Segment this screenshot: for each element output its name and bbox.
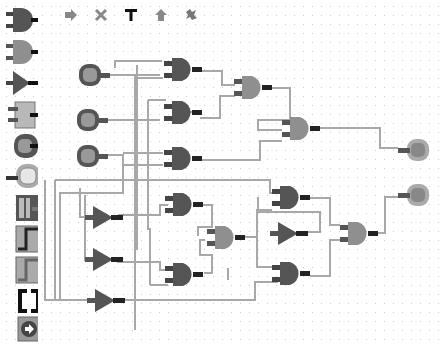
not-gate[interactable] xyxy=(270,222,308,245)
wires xyxy=(45,61,398,330)
not-gate[interactable] xyxy=(87,289,125,312)
or-gate[interactable] xyxy=(234,76,272,99)
or-gate[interactable] xyxy=(340,222,378,245)
and-gate[interactable] xyxy=(164,101,202,124)
input-switch[interactable] xyxy=(79,64,110,86)
and-gate[interactable] xyxy=(272,262,310,285)
input-switch[interactable] xyxy=(77,109,108,131)
or-gate[interactable] xyxy=(282,117,320,140)
not-gate[interactable] xyxy=(85,206,123,229)
circuit-diagram xyxy=(0,0,444,348)
and-gate[interactable] xyxy=(164,58,202,81)
output-lamp[interactable] xyxy=(398,184,429,206)
input-switch[interactable] xyxy=(77,145,108,167)
and-gate[interactable] xyxy=(165,263,203,286)
output-lamp[interactable] xyxy=(398,139,429,161)
or-gate[interactable] xyxy=(207,226,245,249)
and-gate[interactable] xyxy=(272,186,310,209)
not-gate[interactable] xyxy=(85,248,123,271)
and-gate[interactable] xyxy=(164,147,202,170)
and-gate[interactable] xyxy=(165,193,203,216)
